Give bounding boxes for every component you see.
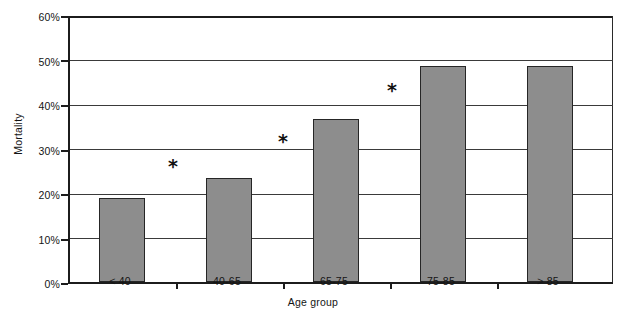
y-tick-label-10: 10% [8, 234, 60, 246]
bar-75-85 [420, 66, 466, 282]
x-tick-label-40-65: 40-65 [172, 275, 282, 287]
y-tick-label-50: 50% [8, 56, 60, 68]
y-tickmark-20 [61, 194, 68, 196]
y-tickmark-40 [61, 105, 68, 107]
y-tick-label-40: 40% [8, 100, 60, 112]
x-tick-label-gt-85: > 85 [493, 275, 603, 287]
bar-40-65 [206, 178, 252, 282]
significance-marker-3: * [382, 81, 402, 100]
y-tick-label-60: 60% [8, 11, 60, 23]
chart-figure: Mortality Age group 60% 50% 40% 30% 20% … [0, 0, 626, 324]
x-tick-label-75-85: 75-85 [386, 275, 496, 287]
y-tickmark-60 [61, 16, 68, 18]
gridline-50 [70, 60, 613, 61]
bar-gt-85 [527, 66, 573, 282]
x-tick-label-65-75: 65-75 [279, 275, 389, 287]
y-tick-label-30: 30% [8, 145, 60, 157]
plot-area [68, 16, 613, 284]
y-tick-label-0: 0% [8, 278, 60, 290]
bar-lt-40 [99, 198, 145, 282]
y-tickmark-10 [61, 239, 68, 241]
significance-marker-2: * [273, 132, 293, 151]
x-axis-title: Age group [0, 296, 626, 308]
y-tickmark-30 [61, 150, 68, 152]
x-tick-label-lt-40: < 40 [65, 275, 175, 287]
bar-65-75 [313, 119, 359, 282]
y-tick-label-20: 20% [8, 189, 60, 201]
y-tickmark-50 [61, 60, 68, 62]
plot-top-border [70, 16, 613, 18]
y-axis-title: Mortality [12, 74, 24, 194]
significance-marker-1: * [163, 157, 183, 176]
